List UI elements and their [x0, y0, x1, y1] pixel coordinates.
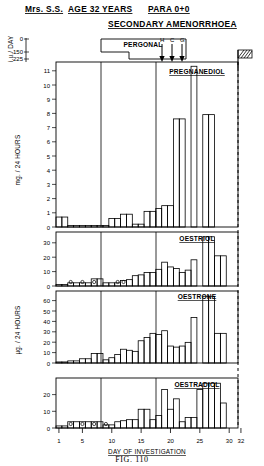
- oestrone-bars: [56, 296, 226, 363]
- bar: [162, 331, 168, 363]
- header: Mrs. S.S. AGE 32 YEARS PARA 0+0 SECONDAR…: [25, 4, 237, 29]
- bar: [68, 226, 74, 227]
- bar: [144, 409, 150, 428]
- hcg-letter-g: G: [180, 37, 185, 43]
- bar: [185, 270, 191, 286]
- pregnanediol-y-ticks: 0 1 2 3 4 5 6 7 8 9 10 11: [43, 68, 56, 230]
- bar: [103, 283, 109, 286]
- bar: [56, 284, 62, 286]
- bar: [168, 409, 174, 428]
- bar: [115, 422, 121, 428]
- bar: [103, 360, 109, 363]
- oestrone-y-ticks: 0 10 20 30 40 50 60: [43, 298, 56, 366]
- dose-tick-225: 225: [13, 56, 24, 62]
- svg-text:1: 1: [47, 210, 51, 216]
- bar: [85, 359, 91, 363]
- x-tick-label: 20: [167, 438, 174, 444]
- bar: [215, 333, 221, 363]
- bar: [74, 283, 80, 286]
- svg-text:11: 11: [44, 68, 51, 74]
- bar: [138, 409, 144, 428]
- svg-text:0: 0: [47, 284, 51, 290]
- bar: [179, 119, 185, 227]
- bar: [132, 276, 138, 286]
- x-tick-label: 30: [226, 438, 233, 444]
- diagnosis: SECONDARY AMENORRHOEA: [108, 19, 237, 29]
- bar: [179, 273, 185, 287]
- bar: [115, 218, 121, 227]
- oestradiol-low-markers: [69, 422, 107, 425]
- svg-text:50: 50: [43, 309, 50, 315]
- bar: [97, 422, 103, 428]
- figure-panel: Mrs. S.S. AGE 32 YEARS PARA 0+0 SECONDAR…: [0, 0, 264, 466]
- bar: [79, 226, 85, 227]
- bar: [103, 226, 109, 227]
- low-value-marker: [93, 422, 96, 425]
- bar: [97, 279, 103, 286]
- menstruation-flag-icon: [238, 50, 252, 68]
- bar: [150, 273, 156, 287]
- bar: [138, 275, 144, 286]
- oestriol-title: OESTRIOL: [179, 235, 214, 242]
- svg-text:3: 3: [47, 182, 51, 188]
- bar: [209, 296, 215, 363]
- svg-text:20: 20: [43, 340, 50, 346]
- patient-age: AGE 32 YEARS: [68, 4, 133, 14]
- hcg-letter-c: C: [170, 37, 175, 43]
- bar: [168, 206, 174, 227]
- bar: [191, 418, 197, 428]
- bar: [74, 226, 80, 227]
- bar: [162, 389, 168, 428]
- oestrone-y-label: µg. / 24 HOURS: [14, 305, 22, 354]
- bar: [85, 226, 91, 227]
- hormone-profile-chart: Mrs. S.S. AGE 32 YEARS PARA 0+0 SECONDAR…: [0, 0, 264, 466]
- bar: [156, 209, 162, 227]
- bar: [85, 422, 91, 428]
- pergonal-label: PERGONAL: [124, 41, 163, 48]
- bar: [215, 383, 221, 428]
- svg-text:0: 0: [47, 361, 51, 367]
- svg-text:30: 30: [43, 240, 50, 246]
- bar: [132, 351, 138, 363]
- bar: [162, 206, 168, 227]
- pregnanediol-bars: [56, 66, 215, 227]
- x-tick-label: 32: [238, 438, 245, 444]
- patient-name: Mrs. S.S.: [25, 4, 63, 14]
- bar: [156, 334, 162, 363]
- bar: [156, 416, 162, 429]
- panel-oestriol: 0 10 20 30 OESTRIOL: [43, 232, 238, 290]
- figure-caption: FIG. 110: [115, 455, 148, 464]
- bar: [162, 262, 168, 286]
- bar: [62, 426, 68, 428]
- bar: [209, 237, 215, 286]
- low-value-marker: [69, 422, 72, 425]
- bar: [144, 273, 150, 287]
- bar: [168, 267, 174, 286]
- bar: [126, 214, 132, 227]
- bar: [74, 422, 80, 428]
- treatment-strip: i.u./ DAY 0 150 225 PERGONAL H C G: [7, 35, 252, 68]
- bar: [62, 284, 68, 286]
- svg-text:30: 30: [43, 329, 50, 335]
- bar: [126, 280, 132, 286]
- bar: [144, 211, 150, 227]
- bar: [91, 226, 97, 227]
- bar: [109, 218, 115, 227]
- svg-text:7: 7: [47, 125, 51, 131]
- x-tick-label: 10: [108, 438, 115, 444]
- patient-para: PARA 0+0: [148, 4, 190, 14]
- oestriol-y-ticks: 0 10 20 30: [43, 240, 56, 289]
- svg-text:2: 2: [47, 196, 51, 202]
- bar: [121, 280, 127, 286]
- bar: [56, 362, 62, 363]
- oestradiol-y-ticks: 0 10 20: [43, 392, 56, 431]
- svg-text:0: 0: [47, 225, 51, 231]
- bar: [197, 389, 203, 428]
- bar: [115, 355, 121, 363]
- x-tick-label: 15: [138, 438, 145, 444]
- bar: [191, 260, 197, 286]
- bar: [74, 361, 80, 363]
- svg-text:8: 8: [47, 111, 51, 117]
- bar: [220, 333, 226, 363]
- bar: [156, 269, 162, 286]
